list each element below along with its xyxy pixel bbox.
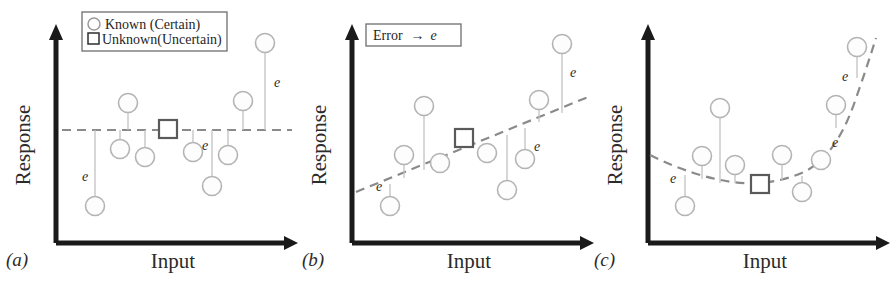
square-icon (88, 33, 99, 44)
known-point[interactable] (256, 34, 275, 53)
known-point[interactable] (381, 197, 400, 216)
error-label: e (202, 138, 208, 153)
error-note: Error→e (366, 24, 461, 46)
axes-group-c (641, 24, 890, 250)
panel-a: e e e Known (Certain) Unknown(Uncertain)… (0, 0, 300, 282)
error-label: e (82, 169, 88, 184)
panel-letter-a: (a) (6, 249, 28, 271)
y-axis-arrowhead (345, 24, 359, 40)
figure-root: e e e Known (Certain) Unknown(Uncertain)… (0, 0, 892, 282)
y-axis-title: Response (307, 105, 331, 186)
panel-letter-c: (c) (594, 249, 615, 271)
panel-c-plot: e e e Input Response (c) (592, 0, 892, 282)
error-note-prefix: Error (373, 28, 403, 43)
legend-item-label-known: Known (Certain) (105, 17, 201, 33)
error-label: e (832, 135, 838, 150)
panel-c: e e e Input Response (c) (592, 0, 892, 282)
known-point[interactable] (119, 94, 138, 113)
known-point[interactable] (711, 99, 730, 118)
y-axis-arrowhead (641, 24, 655, 40)
error-label: e (570, 65, 576, 80)
known-points-b (381, 35, 572, 216)
known-point[interactable] (812, 151, 831, 170)
error-label: e (670, 171, 676, 186)
known-point[interactable] (726, 156, 745, 175)
known-point[interactable] (530, 91, 549, 110)
panel-b-plot: e e e Error→e Input Response (b) (296, 0, 596, 282)
known-point[interactable] (827, 96, 846, 115)
unknown-point[interactable] (159, 120, 177, 138)
known-point[interactable] (793, 183, 812, 202)
known-point[interactable] (395, 146, 414, 165)
x-axis-arrowhead (876, 236, 890, 250)
legend-item-label-unknown: Unknown(Uncertain) (102, 32, 222, 48)
known-point[interactable] (136, 148, 155, 167)
panel-a-plot: e e e Known (Certain) Unknown(Uncertain)… (0, 0, 300, 282)
known-point[interactable] (498, 181, 517, 200)
y-axis-title: Response (603, 105, 627, 186)
known-point[interactable] (203, 177, 222, 196)
known-point[interactable] (478, 144, 497, 163)
error-note-arrow: → (411, 28, 425, 43)
legend: Known (Certain) Unknown(Uncertain) (82, 12, 227, 51)
known-point[interactable] (553, 35, 572, 54)
known-point[interactable] (516, 150, 535, 169)
panel-letter-b: (b) (302, 249, 324, 271)
error-label: e (534, 139, 540, 154)
known-point[interactable] (415, 97, 434, 116)
known-points-c (676, 38, 867, 216)
x-axis-title: Input (151, 249, 195, 273)
panel-b: e e e Error→e Input Response (b) (296, 0, 596, 282)
error-note-symbol: e (431, 28, 437, 43)
error-label: e (376, 179, 382, 194)
error-stems-b (390, 44, 562, 206)
x-axis-title: Input (743, 249, 787, 273)
known-point[interactable] (234, 92, 253, 111)
known-point[interactable] (848, 38, 867, 57)
error-stems-a (95, 43, 265, 206)
known-point[interactable] (86, 197, 105, 216)
known-point[interactable] (219, 146, 238, 165)
unknown-point[interactable] (455, 129, 473, 147)
known-point[interactable] (773, 146, 792, 165)
known-point[interactable] (693, 147, 712, 166)
known-point[interactable] (184, 143, 203, 162)
unknown-point[interactable] (751, 175, 769, 193)
known-point[interactable] (676, 197, 695, 216)
x-axis-title: Input (447, 249, 491, 273)
y-axis-arrowhead (49, 24, 63, 40)
y-axis-title: Response (11, 105, 35, 186)
known-points-a (86, 34, 275, 216)
known-point[interactable] (111, 140, 130, 159)
error-label: e (842, 69, 848, 84)
circle-icon (88, 18, 100, 30)
error-label: e (274, 75, 280, 90)
known-point[interactable] (431, 154, 450, 173)
